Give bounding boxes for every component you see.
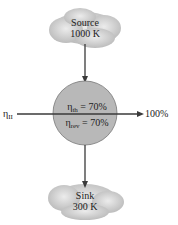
eta-rev-label: ηrev = 70% bbox=[57, 117, 117, 132]
eta-II-label: ηII bbox=[3, 108, 13, 123]
axis-max-label: 100% bbox=[145, 108, 168, 119]
eta-th-label: ηth = 70% bbox=[57, 101, 117, 116]
sink-label: Sink 300 K bbox=[60, 190, 110, 212]
source-label: Source 1000 K bbox=[60, 17, 110, 39]
